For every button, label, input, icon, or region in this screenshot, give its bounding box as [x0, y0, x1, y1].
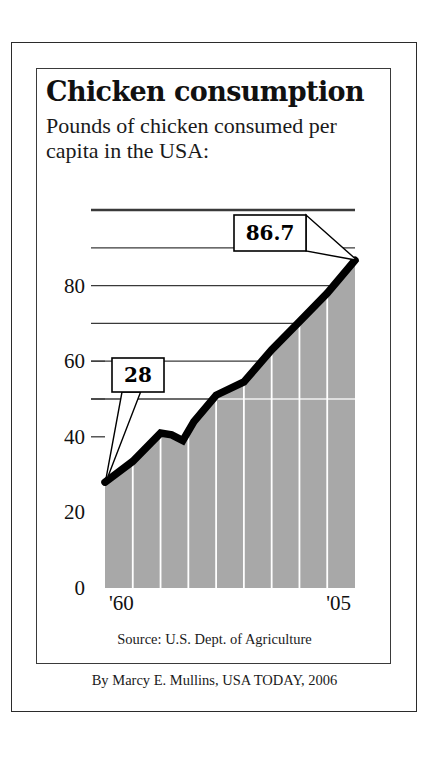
callout-end-label: 86.7	[246, 221, 295, 245]
x-axis-label-05: '05	[326, 591, 351, 610]
byline: By Marcy E. Mullins, USA TODAY, 2006	[22, 672, 407, 689]
y-axis-label-80: 80	[64, 274, 85, 298]
y-axis-labels-group: 020406080	[64, 274, 85, 600]
area-fill	[105, 260, 355, 588]
page-title: Chicken consumption	[46, 78, 386, 106]
y-axis-label-0: 0	[75, 576, 86, 600]
callout-start-label: 28	[124, 363, 152, 387]
source-note: Source: U.S. Dept. of Agriculture	[47, 631, 382, 648]
callout-end-leader	[306, 215, 357, 260]
y-axis-label-40: 40	[64, 425, 85, 449]
chart-subtitle: Pounds of chicken consumed per capita in…	[46, 114, 391, 163]
area-fill-group	[105, 260, 355, 588]
y-axis-label-60: 60	[64, 349, 85, 373]
x-axis-labels-group: '60'05	[109, 591, 351, 610]
y-axis-label-20: 20	[64, 500, 85, 524]
x-axis-label-60: '60	[109, 591, 134, 610]
chart-plot-area: 020406080 '60'05 2886.7	[36, 190, 391, 610]
